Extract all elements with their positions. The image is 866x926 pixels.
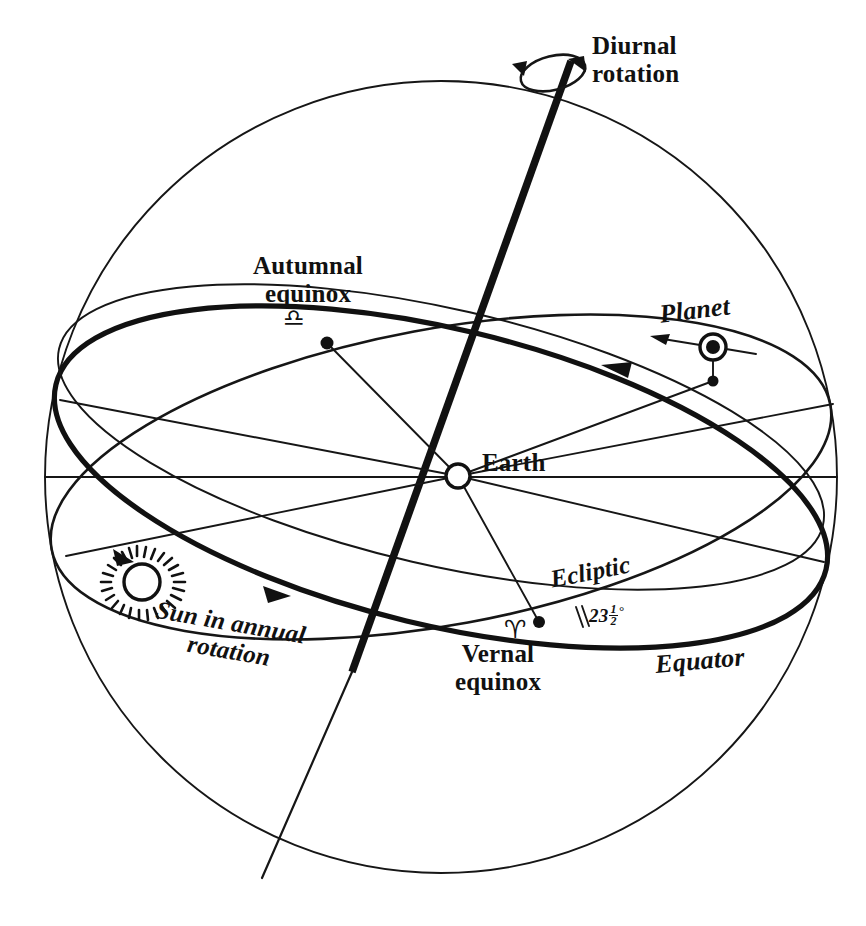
obliquity-angle-tick-a [576,607,583,627]
sun-annual-motion-arrow [263,586,291,603]
obliquity-angle-tick-b [582,606,589,626]
autumnal-line-2: equinox [265,280,351,307]
vernal-equinox-node [533,616,545,628]
radius-to-upper-left-rim [60,400,458,476]
label-autumnal-equinox: Autumnal equinox [228,252,388,308]
planet-projection-dot [708,376,719,387]
planet-motion-arrow [650,334,670,345]
polar-axis-tail [262,672,352,878]
autumnal-line-1: Autumnal [253,252,363,279]
radius-to-lower-right-rim [458,476,824,562]
earth-disc [446,464,470,488]
label-vernal-equinox: Vernal equinox [418,640,578,696]
radius-to-autumnal-equinox [327,343,458,476]
diurnal-rotation-arrow-left [512,61,527,76]
diurnal-line-2: rotation [592,60,679,87]
celestial-sphere-figure: Diurnal rotation Autumnal equinox ♎ Plan… [0,0,866,926]
autumnal-equinox-node [321,337,334,350]
planet-right-tick [726,349,756,354]
obliquity-denominator: 2 [610,616,616,627]
vernal-line-1: Vernal [462,640,535,667]
label-earth: Earth [482,449,546,477]
label-diurnal-rotation: Diurnal rotation [592,32,679,88]
label-obliquity-angle: 2312° [589,604,624,628]
aries-symbol-icon: ♈ [504,617,526,642]
vernal-line-2: equinox [455,668,541,695]
celestial-sphere-svg [0,0,866,926]
radius-to-vernal-equinox [458,476,539,622]
polar-axis-thick [352,61,571,672]
diurnal-line-1: Diurnal [592,32,677,59]
planet-marker-core [706,340,720,354]
obliquity-whole-number: 23 [589,605,608,626]
degree-symbol: ° [619,604,624,619]
obliquity-fraction: 12 [609,604,617,628]
libra-symbol-icon: ♎ [283,306,305,330]
